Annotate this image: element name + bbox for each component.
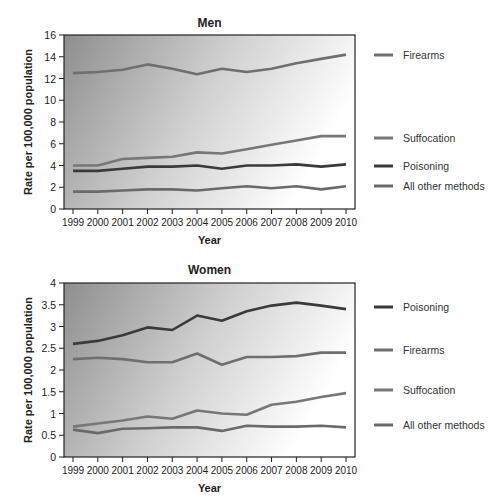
y-tick-label: 2 bbox=[50, 181, 56, 193]
y-tick-label: 6 bbox=[50, 138, 56, 150]
legend-label: Poisoning bbox=[403, 301, 449, 313]
legend-label: Poisoning bbox=[403, 160, 449, 172]
x-tick-label: 2005 bbox=[211, 217, 234, 228]
y-tick-label: 2 bbox=[50, 364, 56, 376]
y-tick-label: 12 bbox=[44, 73, 56, 85]
x-tick-label: 2003 bbox=[161, 465, 184, 476]
x-tick-label: 1999 bbox=[62, 465, 85, 476]
y-tick-label: 14 bbox=[44, 51, 56, 63]
y-tick-label: 10 bbox=[44, 94, 56, 106]
y-tick-label: 4 bbox=[50, 160, 56, 172]
women-chart-svg: Women00.511.522.533.54199920002001200220… bbox=[0, 250, 493, 501]
y-tick-label: 3.5 bbox=[41, 299, 56, 311]
y-tick-label: 2.5 bbox=[41, 342, 56, 354]
y-tick-label: 0 bbox=[50, 451, 56, 463]
legend-label: Firearms bbox=[403, 344, 444, 356]
x-tick-label: 2006 bbox=[236, 465, 259, 476]
x-axis-label: Year bbox=[198, 482, 222, 494]
x-tick-label: 2007 bbox=[260, 217, 283, 228]
x-tick-label: 2006 bbox=[236, 217, 259, 228]
men-chart: Men0246810121416199920002001200220032004… bbox=[0, 0, 493, 250]
x-tick-label: 2000 bbox=[87, 465, 110, 476]
y-tick-label: 0 bbox=[50, 203, 56, 215]
legend-label: Suffocation bbox=[403, 132, 456, 144]
x-tick-label: 2009 bbox=[310, 217, 333, 228]
x-axis-label: Year bbox=[198, 234, 222, 246]
y-tick-label: 1 bbox=[50, 408, 56, 420]
legend-label: All other methods bbox=[403, 419, 485, 431]
x-tick-label: 2004 bbox=[186, 465, 209, 476]
y-tick-label: 4 bbox=[50, 277, 56, 289]
legend-label: Firearms bbox=[403, 49, 444, 61]
legend-label: Suffocation bbox=[403, 384, 456, 396]
x-tick-label: 2005 bbox=[211, 465, 234, 476]
x-tick-label: 2001 bbox=[112, 465, 135, 476]
women-chart: Women00.511.522.533.54199920002001200220… bbox=[0, 250, 493, 501]
chart-title: Men bbox=[198, 16, 222, 30]
chart-title: Women bbox=[188, 263, 231, 277]
y-tick-label: 16 bbox=[44, 29, 56, 41]
x-tick-label: 2010 bbox=[335, 465, 358, 476]
y-axis-label: Rate per 100,000 population bbox=[22, 297, 34, 443]
x-tick-label: 2007 bbox=[260, 465, 283, 476]
x-tick-label: 2009 bbox=[310, 465, 333, 476]
x-tick-label: 2000 bbox=[87, 217, 110, 228]
x-tick-label: 2008 bbox=[285, 465, 308, 476]
y-tick-label: 0.5 bbox=[41, 429, 56, 441]
legend-label: All other methods bbox=[403, 180, 485, 192]
x-tick-label: 2002 bbox=[136, 465, 159, 476]
x-tick-label: 2004 bbox=[186, 217, 209, 228]
x-tick-label: 2001 bbox=[112, 217, 135, 228]
y-tick-label: 1.5 bbox=[41, 386, 56, 398]
y-axis-label: Rate per 100,000 population bbox=[22, 49, 34, 195]
men-chart-svg: Men0246810121416199920002001200220032004… bbox=[0, 0, 493, 250]
x-tick-label: 2002 bbox=[136, 217, 159, 228]
x-tick-label: 2010 bbox=[335, 217, 358, 228]
y-tick-label: 3 bbox=[50, 321, 56, 333]
y-tick-label: 8 bbox=[50, 116, 56, 128]
x-tick-label: 2003 bbox=[161, 217, 184, 228]
x-tick-label: 2008 bbox=[285, 217, 308, 228]
x-tick-label: 1999 bbox=[62, 217, 85, 228]
